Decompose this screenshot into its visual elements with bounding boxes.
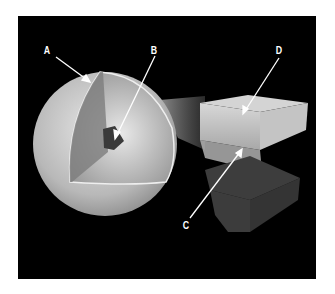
label-a: A xyxy=(44,44,50,56)
cutaway-diagram xyxy=(0,0,335,294)
label-c: C xyxy=(183,219,189,231)
label-d: D xyxy=(276,44,282,56)
label-b: B xyxy=(151,44,157,56)
arrow-a xyxy=(56,57,86,79)
